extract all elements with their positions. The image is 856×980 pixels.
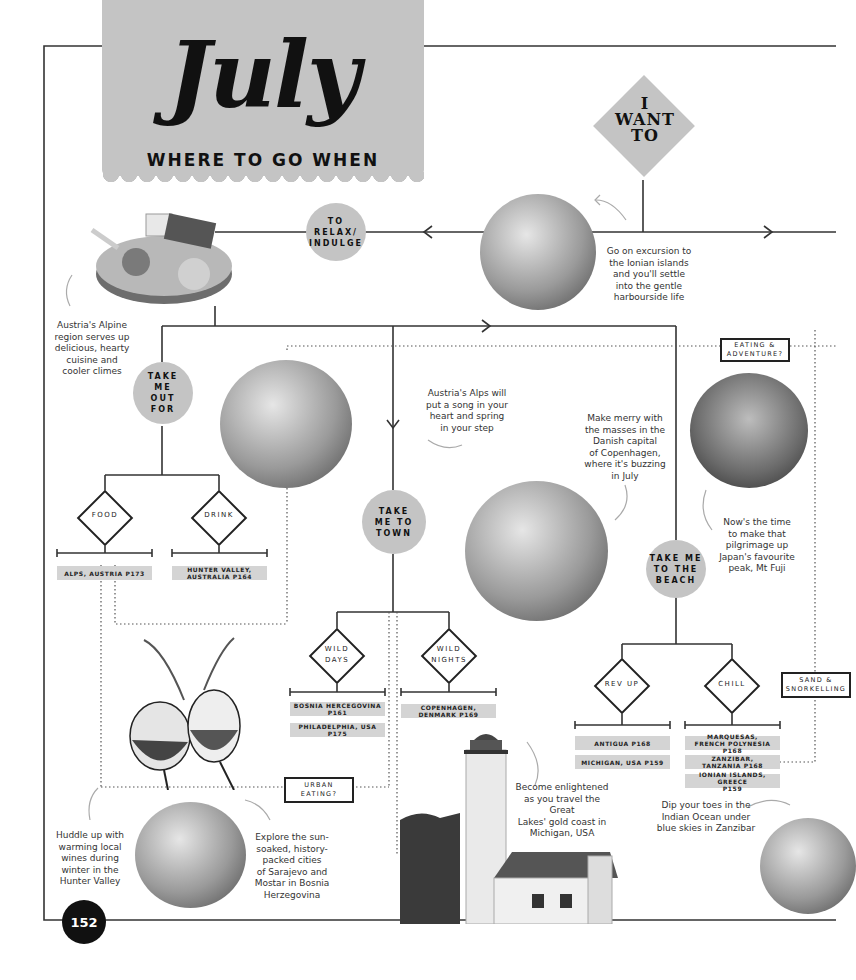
start-node-label: I WANT TO	[600, 96, 690, 144]
decision-drink-label: DRINK	[187, 510, 251, 521]
crosslink-urban-eating[interactable]: URBAN EATING?	[284, 777, 354, 803]
destination-marquesas[interactable]: MARQUESAS, FRENCH POLYNESIA P168	[685, 736, 780, 750]
destination-alps-austria[interactable]: ALPS, AUSTRIA P173	[57, 566, 152, 580]
mt-fuji-photo	[690, 373, 808, 488]
mostar-photo	[135, 802, 246, 908]
subtitle: WHERE TO GO WHEN	[102, 150, 424, 170]
destination-copenhagen[interactable]: COPENHAGEN, DENMARK P169	[401, 704, 496, 718]
destination-zanzibar[interactable]: ZANZIBAR, TANZANIA P168	[685, 755, 780, 769]
cheese-board-photo	[86, 204, 236, 308]
decision-wild-days-label: WILD DAYS	[305, 644, 369, 666]
caption-ionian: Go on excursion to the Ionian islands an…	[604, 246, 694, 304]
month-title: July	[102, 20, 424, 130]
caption-bosnia: Explore the sun- soaked, history- packed…	[252, 832, 332, 901]
alpine-couple-photo	[220, 360, 352, 488]
crosslink-sand-snorkelling[interactable]: SAND & SNORKELLING	[781, 672, 851, 698]
caption-austria-alps: Austria's Alps will put a song in your h…	[424, 388, 510, 434]
decision-chill-label: CHILL	[700, 679, 764, 690]
page-number-badge: 152	[62, 900, 106, 944]
caption-zanzibar: Dip your toes in the Indian Ocean under …	[656, 800, 756, 835]
caption-michigan: Become enlightened as you travel the Gre…	[510, 782, 614, 840]
decision-rev-up-label: REV UP	[590, 679, 654, 690]
node-relax-indulge[interactable]: TO RELAX/ INDULGE	[306, 203, 366, 261]
node-take-me-to-beach[interactable]: TAKE ME TO THE BEACH	[646, 540, 706, 598]
decision-wild-nights-label: WILD NIGHTS	[417, 644, 481, 666]
destination-philadelphia[interactable]: PHILADELPHIA, USA P175	[290, 723, 385, 737]
node-take-me-to-town[interactable]: TAKE ME TO TOWN	[362, 490, 426, 554]
node-take-me-out-for[interactable]: TAKE ME OUT FOR	[133, 362, 193, 424]
caption-mt-fuji: Now's the time to make that pilgrimage u…	[714, 517, 800, 575]
crosslink-eating-adventure[interactable]: EATING & ADVENTURE?	[720, 338, 790, 362]
caption-copenhagen: Make merry with the masses in the Danish…	[580, 413, 670, 482]
nyhavn-photo	[465, 481, 608, 621]
caption-austria-alpine: Austria's Alpine region serves up delici…	[50, 320, 134, 378]
wine-glasses-photo	[124, 630, 256, 790]
destination-antigua[interactable]: ANTIGUA P168	[575, 736, 670, 750]
banner-scallop-edge	[102, 172, 424, 184]
zanzibar-child-photo	[760, 818, 856, 914]
destination-hunter-valley[interactable]: HUNTER VALLEY, AUSTRALIA P164	[172, 566, 267, 580]
harbour-boats-photo	[480, 194, 596, 310]
destination-michigan[interactable]: MICHIGAN, USA P159	[575, 755, 670, 769]
destination-ionian-islands[interactable]: IONIAN ISLANDS, GREECE P159	[685, 774, 780, 788]
destination-bosnia-hercegovina[interactable]: BOSNIA HERCEGOVINA P161	[290, 702, 385, 716]
caption-hunter-valley: Huddle up with warming local wines durin…	[52, 830, 128, 888]
decision-food-label: FOOD	[73, 510, 137, 521]
